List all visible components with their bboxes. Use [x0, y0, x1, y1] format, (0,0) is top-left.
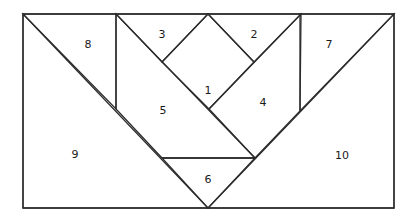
- piece-label-8: 8: [85, 38, 92, 51]
- piece-label-3: 3: [159, 28, 166, 41]
- piece-label-2: 2: [251, 28, 258, 41]
- piece-label-5: 5: [160, 104, 167, 117]
- dissection-diagram: 12345678910: [0, 0, 416, 223]
- piece-label-7: 7: [326, 38, 333, 51]
- piece-label-4: 4: [260, 96, 267, 109]
- piece-5: [116, 14, 255, 158]
- piece-label-10: 10: [335, 149, 349, 162]
- piece-label-6: 6: [205, 173, 212, 186]
- piece-label-9: 9: [72, 148, 79, 161]
- piece-label-1: 1: [205, 84, 212, 97]
